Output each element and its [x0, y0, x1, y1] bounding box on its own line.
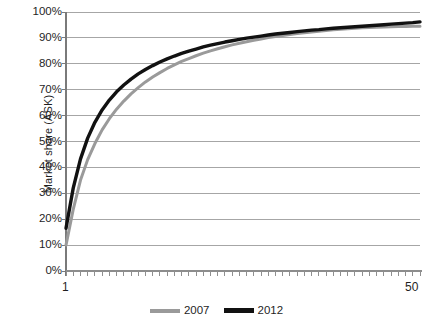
legend-item[interactable]: 2007 — [150, 305, 210, 317]
chart-container: Market share (ASK) 100%90%80%70%60%50%40… — [0, 0, 433, 333]
chart-legend: 20072012 — [0, 305, 433, 317]
legend-color-swatch — [224, 308, 254, 313]
legend-label: 2007 — [184, 305, 210, 317]
x-axis-end-label: 50 — [405, 281, 418, 293]
legend-label: 2012 — [258, 305, 284, 317]
series-line-2007 — [66, 26, 420, 245]
legend-color-swatch — [150, 309, 180, 313]
x-axis-start-label: 1 — [62, 281, 69, 293]
series-line-2012 — [66, 22, 420, 228]
legend-item[interactable]: 2012 — [224, 305, 284, 317]
